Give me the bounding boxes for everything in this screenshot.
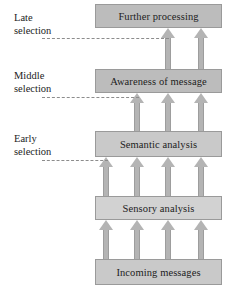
arrow-semantic-to-awareness-1 xyxy=(129,93,145,131)
selection-label-line1: Middle xyxy=(14,70,51,83)
arrow-head-icon xyxy=(194,93,208,103)
selection-label-line2: selection xyxy=(14,146,51,159)
arrow-head-icon xyxy=(161,28,175,38)
arrow-shaft xyxy=(198,229,204,259)
selection-line-early xyxy=(42,160,108,161)
stage-box-semantic-analysis[interactable]: Semantic analysis xyxy=(95,131,222,157)
arrow-incoming-to-sensory-3 xyxy=(160,220,176,259)
selection-label-middle: Middleselection xyxy=(14,70,51,95)
arrow-head-icon xyxy=(130,93,144,103)
selection-line-late xyxy=(42,38,169,39)
arrow-head-icon xyxy=(161,157,175,167)
arrow-shaft xyxy=(198,37,204,69)
arrow-incoming-to-sensory-2 xyxy=(129,220,145,259)
arrow-sensory-to-semantic-1 xyxy=(98,157,114,196)
arrow-head-icon xyxy=(130,220,144,230)
selection-label-line1: Late xyxy=(14,12,51,25)
arrow-head-icon xyxy=(99,157,113,167)
arrow-head-icon xyxy=(194,220,208,230)
arrow-incoming-to-sensory-4 xyxy=(193,220,209,259)
arrow-shaft xyxy=(103,166,109,196)
arrow-shaft xyxy=(198,102,204,131)
stage-label: Further processing xyxy=(118,11,198,22)
arrow-sensory-to-semantic-3 xyxy=(160,157,176,196)
arrow-shaft xyxy=(134,102,140,131)
selection-label-line2: selection xyxy=(14,83,51,96)
arrow-shaft xyxy=(165,37,171,69)
selection-label-line2: selection xyxy=(14,25,51,38)
stage-label: Semantic analysis xyxy=(120,139,197,150)
arrow-shaft xyxy=(103,229,109,259)
selective-attention-diagram: LateselectionMiddleselectionEarlyselecti… xyxy=(0,0,230,291)
arrow-sensory-to-semantic-2 xyxy=(129,157,145,196)
selection-label-early: Earlyselection xyxy=(14,133,51,158)
arrow-shaft xyxy=(165,166,171,196)
arrow-head-icon xyxy=(130,157,144,167)
stage-box-sensory-analysis[interactable]: Sensory analysis xyxy=(95,196,222,220)
stage-box-awareness-of-message[interactable]: Awareness of message xyxy=(95,69,222,93)
arrow-shaft xyxy=(134,166,140,196)
stage-box-further-processing[interactable]: Further processing xyxy=(95,4,222,28)
arrow-awareness-to-further-1 xyxy=(160,28,176,69)
selection-line-middle xyxy=(42,97,139,98)
arrow-sensory-to-semantic-4 xyxy=(193,157,209,196)
arrow-head-icon xyxy=(99,220,113,230)
arrow-semantic-to-awareness-3 xyxy=(193,93,209,131)
arrow-incoming-to-sensory-1 xyxy=(98,220,114,259)
arrow-head-icon xyxy=(194,157,208,167)
stage-box-incoming-messages[interactable]: Incoming messages xyxy=(95,259,222,285)
arrow-shaft xyxy=(134,229,140,259)
selection-label-late: Lateselection xyxy=(14,12,51,37)
stage-label: Incoming messages xyxy=(116,267,200,278)
selection-label-line1: Early xyxy=(14,133,51,146)
arrow-awareness-to-further-2 xyxy=(193,28,209,69)
arrow-head-icon xyxy=(194,28,208,38)
arrow-shaft xyxy=(165,102,171,131)
arrow-head-icon xyxy=(161,220,175,230)
stage-label: Sensory analysis xyxy=(123,203,195,214)
arrow-shaft xyxy=(165,229,171,259)
arrow-semantic-to-awareness-2 xyxy=(160,93,176,131)
stage-label: Awareness of message xyxy=(110,76,207,87)
arrow-shaft xyxy=(198,166,204,196)
arrow-head-icon xyxy=(161,93,175,103)
